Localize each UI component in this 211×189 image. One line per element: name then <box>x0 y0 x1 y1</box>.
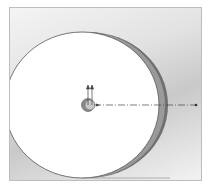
figure-frame <box>9 7 202 181</box>
disc-illustration <box>10 8 202 181</box>
